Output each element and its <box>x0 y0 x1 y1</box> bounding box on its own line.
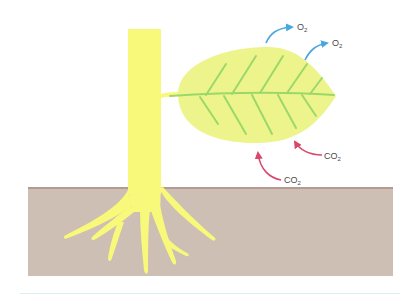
bottom-divider <box>20 293 400 294</box>
co2-label-bottom: CO2 <box>284 175 301 185</box>
diagram-canvas <box>0 0 414 297</box>
leaf <box>160 47 336 143</box>
co2-arrow-right <box>295 142 322 155</box>
plant-diagram: O2 O2 CO2 CO2 <box>0 0 414 297</box>
stem <box>128 29 161 194</box>
co2-label-right: CO2 <box>324 151 341 161</box>
co2-arrow-bottom <box>258 153 281 180</box>
o2-label-right: O2 <box>332 38 342 48</box>
o2-label-top: O2 <box>297 22 307 32</box>
o2-arrow-right <box>305 43 327 60</box>
o2-arrow-top <box>266 27 292 43</box>
